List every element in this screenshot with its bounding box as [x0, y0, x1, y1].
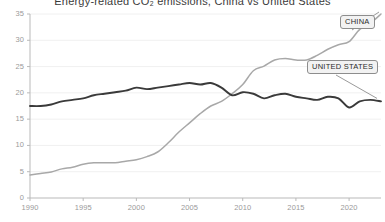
series-line-united-states: [30, 83, 381, 108]
y-axis-tick-label: 5: [2, 167, 24, 176]
y-axis-tick-label: 15: [2, 114, 24, 123]
x-axis-tick-label: 2005: [170, 203, 210, 212]
x-axis-tick-label: 1990: [10, 203, 50, 212]
series-line-china: [30, 14, 381, 175]
x-axis-tick-label: 2000: [116, 203, 156, 212]
y-axis-tick-label: 0: [2, 193, 24, 202]
y-axis-tick-label: 35: [2, 9, 24, 18]
chart-container: Energy-related CO₂ emissions, China vs U…: [0, 0, 385, 222]
y-axis-tick-label: 30: [2, 35, 24, 44]
x-axis-tick-label: 2020: [329, 203, 369, 212]
data-series-layer: [30, 14, 381, 175]
y-axis-tick-label: 25: [2, 62, 24, 71]
y-axis-tick-label: 10: [2, 140, 24, 149]
x-axis-tick-label: 1995: [63, 203, 103, 212]
gridlines: [30, 14, 381, 172]
united-states-callout-leader: [336, 75, 377, 98]
y-axis-tick-label: 20: [2, 88, 24, 97]
line-chart-plot: [0, 0, 385, 222]
united-states-series-callout[interactable]: UNITED STATES: [307, 60, 378, 74]
axes: [30, 14, 381, 198]
x-axis-tick-label: 2010: [223, 203, 263, 212]
china-series-callout[interactable]: CHINA: [340, 15, 375, 29]
x-axis-tick-label: 2015: [276, 203, 316, 212]
